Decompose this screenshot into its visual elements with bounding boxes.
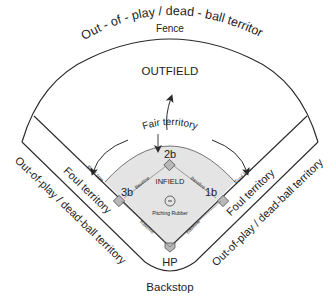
pitching-rubber — [168, 201, 172, 202]
fence-label: Fence — [156, 23, 184, 34]
home-plate-label: HP — [162, 256, 177, 268]
infield-label: INFIELD — [156, 177, 185, 186]
top-out-of-play-label: Out - of - play / dead - ball territory — [0, 0, 265, 43]
second-base-label: 2b — [164, 148, 176, 160]
outfield-label: OUTFIELD — [142, 65, 199, 77]
first-base-label: 1b — [205, 186, 217, 198]
third-base-label: 3b — [121, 186, 133, 198]
backstop-label: Backstop — [146, 281, 193, 293]
home-plate — [165, 243, 175, 252]
pitching-rubber-label: Pitching Rubber — [152, 210, 188, 216]
baseball-field-diagram: Out - of - play / dead - ball territory … — [0, 0, 331, 304]
fair-territory-label: Fair territory — [141, 116, 199, 131]
foul-line-label-right: Foul line — [233, 166, 252, 185]
